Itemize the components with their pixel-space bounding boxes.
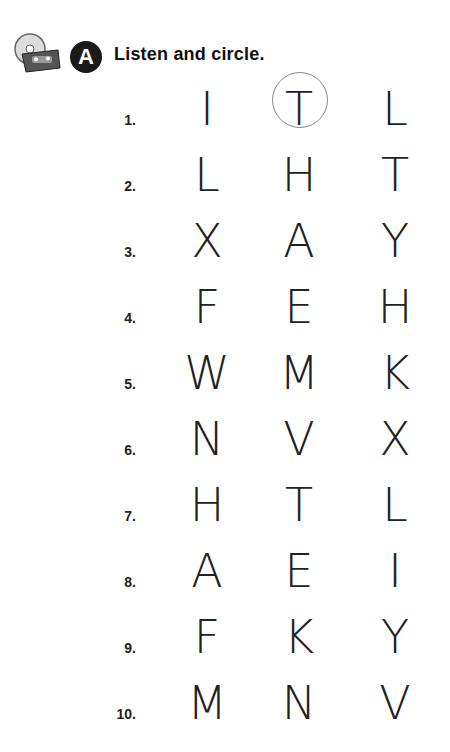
letter-option[interactable]: M	[269, 350, 329, 396]
letter-option[interactable]: Y	[365, 218, 425, 264]
letter-option[interactable]: T	[365, 152, 425, 198]
instruction-title: Listen and circle.	[114, 44, 265, 65]
letter-option[interactable]: E	[269, 548, 329, 594]
letter-option[interactable]: H	[269, 152, 329, 198]
exercise-row: 10.MNV	[0, 672, 450, 738]
letter-option[interactable]: Y	[365, 614, 425, 660]
letter-option[interactable]: V	[269, 416, 329, 462]
letter-option[interactable]: F	[177, 284, 237, 330]
letter-option[interactable]: L	[365, 482, 425, 528]
row-number: 6.	[124, 442, 136, 458]
letter-option[interactable]: I	[177, 86, 237, 132]
letter-option[interactable]: H	[365, 284, 425, 330]
section-badge: A	[70, 41, 102, 73]
exercise-row: 5.WMK	[0, 342, 450, 408]
exercise-row: 2.LHT	[0, 144, 450, 210]
letter-option[interactable]: I	[365, 548, 425, 594]
exercise-row: 8.AEI	[0, 540, 450, 606]
letter-option[interactable]: L	[177, 152, 237, 198]
row-number: 3.	[124, 244, 136, 260]
row-number: 2.	[124, 178, 136, 194]
row-number: 1.	[124, 112, 136, 128]
letter-option[interactable]: T	[269, 86, 329, 132]
letter-option[interactable]: F	[177, 614, 237, 660]
letter-option[interactable]: A	[269, 218, 329, 264]
letter-option[interactable]: T	[269, 482, 329, 528]
row-number: 8.	[124, 574, 136, 590]
letter-option[interactable]: X	[365, 416, 425, 462]
letter-option[interactable]: N	[177, 416, 237, 462]
exercise-row: 6.NVX	[0, 408, 450, 474]
letter-option[interactable]: V	[365, 680, 425, 726]
letter-option[interactable]: M	[177, 680, 237, 726]
row-number: 7.	[124, 508, 136, 524]
row-number: 9.	[124, 640, 136, 656]
exercise-row: 4.FEH	[0, 276, 450, 342]
letter-option[interactable]: W	[177, 350, 237, 396]
letter-option[interactable]: K	[365, 350, 425, 396]
cd-cassette-icon	[12, 32, 62, 76]
row-number: 5.	[124, 376, 136, 392]
exercise-header: A Listen and circle.	[6, 30, 446, 80]
exercise-row: 9.FKY	[0, 606, 450, 672]
letter-option[interactable]: X	[177, 218, 237, 264]
letter-option[interactable]: K	[269, 614, 329, 660]
exercise-row: 3.XAY	[0, 210, 450, 276]
row-number: 10.	[117, 706, 136, 722]
exercise-row: 1.ITL	[0, 78, 450, 144]
letter-option[interactable]: H	[177, 482, 237, 528]
letter-option[interactable]: E	[269, 284, 329, 330]
row-number: 4.	[124, 310, 136, 326]
letter-option[interactable]: L	[365, 86, 425, 132]
exercise-row: 7.HTL	[0, 474, 450, 540]
letter-option[interactable]: N	[269, 680, 329, 726]
letter-option[interactable]: A	[177, 548, 237, 594]
